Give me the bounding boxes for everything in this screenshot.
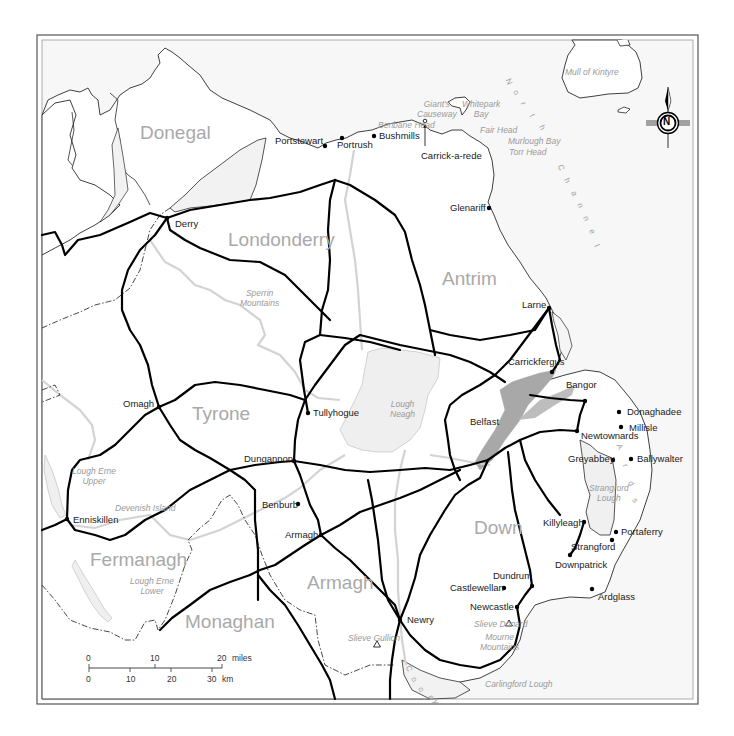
town-label-benburb: Benburb [262,500,298,510]
feature-label-whitepark-bay: Whitepark Bay [462,100,500,120]
town-dot-armagh [319,533,323,537]
town-dot-downpatrick [568,553,572,557]
town-dot-derry [165,216,169,220]
scale-km-20: 20 [167,674,176,684]
town-label-downpatrick: Downpatrick [555,560,607,570]
town-dot-larne [547,306,551,310]
town-label-tullyhogue: Tullyhogue [313,408,359,418]
town-dot-bushmills [372,134,376,138]
town-label-newry: Newry [407,615,434,625]
county-label-antrim: Antrim [442,269,497,288]
county-label-donegal: Donegal [140,123,211,142]
scale-km-0: 0 [86,674,91,684]
feature-label-mull-of-kintyre: Mull of Kintyre [565,68,619,78]
feature-label-devenish-island: Devenish Island [115,504,175,514]
compass-letter: N [663,117,670,127]
town-label-larne: Larne [522,300,546,310]
town-dot-ballywalter [629,457,633,461]
town-dot-tullyhogue [306,411,310,415]
feature-label-slieve-donard: Slieve Donard [474,620,527,630]
town-dot-newtownards [575,429,579,433]
town-dot-portaferry [614,530,618,534]
scale-km-unit: km [222,674,233,684]
feature-label-murlough-bay: Murlough Bay [508,137,560,147]
county-label-fermanagh: Fermanagh [90,550,187,569]
scale-km-10: 10 [126,674,135,684]
town-label-ballywalter: Ballywalter [637,454,683,464]
county-label-armagh: Armagh [307,573,374,592]
feature-label-mourne-mountains: Mourne Mountains [480,633,519,653]
feature-label-torr-head: Torr Head [509,148,546,158]
town-label-derry: Derry [175,219,198,229]
feature-label-lough-erne-lower: Lough Erne Lower [130,577,174,597]
town-label-killyleagh: Killyleagh [543,518,584,528]
town-label-greyabbey: Greyabbey [568,454,614,464]
map: DonegalLondonderryAntrimTyroneFermanaghA… [0,0,734,736]
town-label-castlewellan: Castlewellan [450,583,504,593]
town-dot-enniskillen [65,517,69,521]
town-label-belfast: Belfast [470,417,499,427]
town-label-portaferry: Portaferry [621,527,663,537]
town-label-bangor: Bangor [566,380,597,390]
town-dot-glenariff [487,206,491,210]
feature-label-sperrin-mountains: Sperrin Mountains [240,289,279,309]
feature-label-carlingford-lough: Carlingford Lough [485,680,553,690]
town-dot-dundrum [530,584,534,588]
feature-label-slieve-gullion: Slieve Gullion [348,634,400,644]
scale-mile-0: 0 [86,653,91,663]
town-label-carrick-a-rede: Carrick-a-rede [421,151,482,161]
town-label-newtownards: Newtownards [581,431,639,441]
town-dot-omagh [157,405,161,409]
town-dot-carrickfergus [550,370,554,374]
town-label-armagh: Armagh [285,530,318,540]
town-dot-portstewart [323,144,327,148]
scale-mile-20: 20 [217,653,226,663]
town-dot-bangor [583,399,587,403]
town-label-dungannon: Dungannon [244,454,293,464]
map-canvas [0,0,734,736]
town-dot-ardglass [590,587,594,591]
town-dot-donaghadee [617,410,621,414]
feature-label-lough-erne-upper: Lough Erne Upper [72,467,116,487]
town-label-newcastle: Newcastle [470,602,514,612]
feature-label-benbane-head: Benbane Head [378,121,435,131]
town-label-portrush: Portrush [337,140,373,150]
feature-label-strangford-lough: Strangford Lough [589,484,629,504]
county-label-londonderry: Londonderry [228,230,335,249]
county-label-monaghan: Monaghan [185,612,275,631]
scale-km-30: 30 [207,674,216,684]
scale-mile-unit: miles [232,653,252,663]
scale-mile-10: 10 [150,653,159,663]
town-label-carrickfergus: Carrickfergus [508,357,565,367]
county-label-down: Down [474,518,523,537]
town-label-bushmills: Bushmills [379,131,420,141]
town-label-portstewart: Portstewart [275,136,323,146]
town-dot-newcastle [515,605,519,609]
town-label-omagh: Omagh [123,399,154,409]
town-label-dundrum: Dundrum [493,571,532,581]
feature-label-fair-head: Fair Head [480,126,517,136]
town-label-donaghadee: Donaghadee [627,407,681,417]
town-label-glenariff: Glenariff [450,203,486,213]
feature-label-giant-s-causeway: Giant's Causeway [417,100,457,120]
county-label-tyrone: Tyrone [192,404,250,423]
feature-label-lough-neagh: Lough Neagh [390,400,415,420]
town-label-enniskillen: Enniskillen [73,515,118,525]
town-dot-millisle [619,425,623,429]
town-label-ardglass: Ardglass [598,592,635,602]
town-label-strangford: Strangford [571,542,615,552]
town-dot-newry [398,618,402,622]
